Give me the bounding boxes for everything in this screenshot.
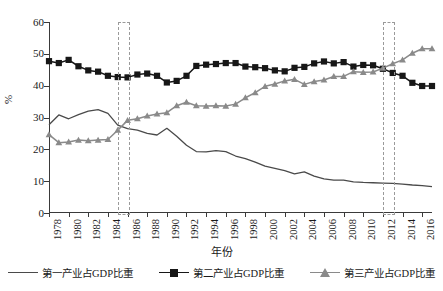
data-point-marker — [370, 62, 376, 68]
series-2 — [46, 57, 435, 89]
y-tick-label: 0 — [20, 208, 44, 219]
x-tick-mark — [167, 213, 168, 217]
data-point-marker — [144, 70, 150, 76]
series-canvas — [49, 22, 432, 213]
x-tick-mark — [49, 213, 50, 217]
data-point-marker — [105, 73, 111, 79]
x-tick-label: 1990 — [171, 219, 182, 240]
data-point-marker — [183, 73, 189, 79]
data-point-marker — [134, 71, 140, 77]
x-tick-mark — [324, 213, 325, 217]
data-point-marker — [291, 76, 298, 82]
series-1 — [49, 110, 432, 187]
legend-swatch-square-icon — [159, 268, 189, 278]
data-point-marker — [223, 60, 229, 66]
legend-label: 第三产业占GDP比重 — [344, 265, 435, 280]
data-point-marker — [409, 80, 415, 86]
x-tick-mark — [69, 213, 70, 217]
data-point-marker — [46, 58, 52, 64]
legend-swatch-line-icon — [8, 268, 38, 278]
data-point-marker — [301, 64, 307, 70]
x-tick-label: 1992 — [190, 219, 201, 240]
data-point-marker — [242, 63, 248, 69]
x-tick-mark — [88, 213, 89, 217]
data-point-marker — [193, 63, 199, 69]
x-tick-label: 1984 — [112, 219, 123, 240]
x-tick-label: 2004 — [308, 219, 319, 240]
x-tick-mark — [245, 213, 246, 217]
x-tick-mark — [147, 213, 148, 217]
x-tick-label: 1996 — [230, 219, 241, 240]
data-point-marker — [232, 101, 239, 107]
x-tick-mark — [285, 213, 286, 217]
x-tick-label: 1988 — [151, 219, 162, 240]
x-tick-mark — [265, 213, 266, 217]
data-point-marker — [213, 61, 219, 67]
data-point-marker — [46, 131, 53, 137]
x-tick-label: 2000 — [269, 219, 280, 240]
data-point-marker — [56, 60, 62, 66]
data-point-marker — [75, 63, 81, 69]
plot-area — [49, 22, 432, 213]
data-point-marker — [282, 68, 288, 74]
x-tick-label: 1998 — [249, 219, 260, 240]
data-point-marker — [311, 60, 317, 66]
y-tick-label: 40 — [20, 80, 44, 91]
data-point-marker — [399, 73, 405, 79]
data-point-marker — [154, 73, 160, 79]
x-tick-label: 2010 — [367, 219, 378, 240]
x-tick-label: 2008 — [348, 219, 359, 240]
legend-item-2[interactable]: 第二产业占GDP比重 — [159, 265, 284, 280]
x-tick-label: 2016 — [426, 219, 437, 240]
data-point-marker — [203, 62, 209, 68]
x-tick-label: 1978 — [53, 219, 64, 240]
x-tick-label: 1986 — [132, 219, 143, 240]
data-point-marker — [291, 65, 297, 71]
data-point-marker — [174, 78, 180, 84]
data-point-marker — [360, 62, 366, 68]
x-tick-label: 1994 — [210, 219, 221, 240]
data-point-marker — [183, 99, 190, 105]
x-tick-label: 1980 — [73, 219, 84, 240]
y-tick-label: 30 — [20, 112, 44, 123]
data-point-marker — [331, 60, 337, 66]
legend-label: 第一产业占GDP比重 — [42, 265, 133, 280]
data-point-marker — [164, 79, 170, 85]
series-line — [49, 110, 432, 187]
x-tick-label: 2002 — [289, 219, 300, 240]
legend-label: 第二产业占GDP比重 — [193, 265, 284, 280]
x-tick-mark — [363, 213, 364, 217]
data-point-marker — [95, 69, 101, 75]
data-point-marker — [66, 57, 72, 63]
x-tick-label: 2014 — [407, 219, 418, 240]
data-point-marker — [272, 67, 278, 73]
data-point-marker — [419, 83, 425, 89]
legend-item-3[interactable]: 第三产业占GDP比重 — [310, 265, 435, 280]
data-point-marker — [341, 59, 347, 65]
data-point-marker — [262, 65, 268, 71]
x-tick-mark — [422, 213, 423, 217]
data-point-marker — [321, 58, 327, 64]
y-tick-label: 20 — [20, 144, 44, 155]
x-tick-mark — [304, 213, 305, 217]
legend-swatch-triangle-icon — [310, 268, 340, 278]
series-3 — [46, 45, 436, 145]
x-tick-mark — [186, 213, 187, 217]
data-point-marker — [429, 83, 435, 89]
legend-item-1[interactable]: 第一产业占GDP比重 — [8, 265, 133, 280]
x-tick-mark — [108, 213, 109, 217]
x-tick-mark — [226, 213, 227, 217]
y-tick-label: 50 — [20, 48, 44, 59]
chart-legend: 第一产业占GDP比重第二产业占GDP比重第三产业占GDP比重 — [0, 265, 443, 280]
data-point-marker — [252, 64, 258, 70]
data-point-marker — [85, 67, 91, 73]
x-tick-mark — [403, 213, 404, 217]
x-tick-mark — [344, 213, 345, 217]
x-axis-label: 年份 — [0, 243, 443, 259]
x-tick-label: 1982 — [92, 219, 103, 240]
y-tick-label: 60 — [20, 17, 44, 28]
data-point-marker — [252, 89, 259, 95]
data-point-marker — [232, 60, 238, 66]
highlight-box-1985 — [118, 22, 130, 215]
x-tick-mark — [206, 213, 207, 217]
